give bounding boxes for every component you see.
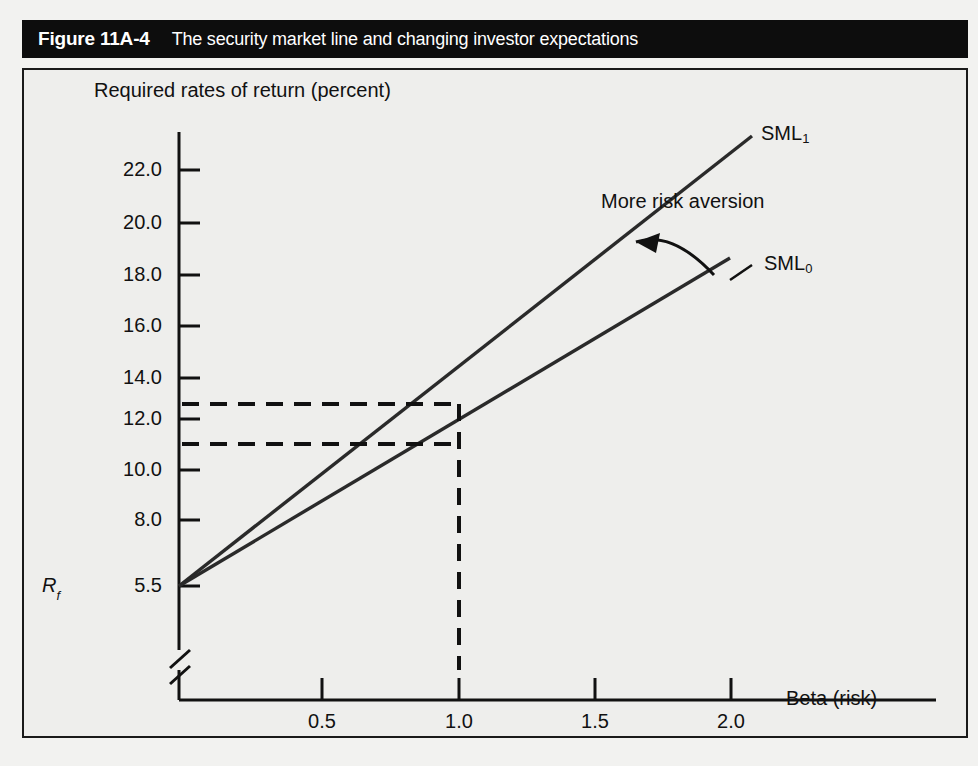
figure-title-bar: Figure 11A-4 The security market line an…: [22, 20, 968, 58]
y-axis-title-text: Required rates of return (percent): [94, 79, 391, 101]
risk-free-rate-symbol: R: [42, 574, 56, 596]
y-tick-label-10: 10.0: [84, 458, 162, 481]
sml0-label-leader: [730, 265, 752, 280]
y-axis-title: Required rates of return (percent): [94, 78, 391, 103]
y-tick-label-8: 8.0: [84, 508, 162, 531]
figure-caption: The security market line and changing in…: [172, 29, 638, 50]
x-axis-title: Beta (risk): [786, 686, 877, 711]
y-tick-label-20: 20.0: [84, 211, 162, 234]
x-tick-label-1-5: 1.5: [565, 710, 625, 733]
y-tick-label-18: 18.0: [84, 263, 162, 286]
more-risk-aversion-annotation: More risk aversion: [601, 190, 764, 213]
y-tick-label-14: 14.0: [84, 366, 162, 389]
y-tick-label-16: 16.0: [84, 314, 162, 337]
x-tick-label-0-5: 0.5: [292, 710, 352, 733]
figure-page: Figure 11A-4 The security market line an…: [0, 0, 978, 766]
figure-number: Figure 11A-4: [38, 28, 150, 50]
risk-free-rate-subscript: f: [56, 588, 60, 603]
sml1-label-subscript: 1: [802, 131, 809, 146]
chart-frame: Required rates of return (percent) Beta …: [22, 68, 968, 738]
risk-free-rate-label: Rf: [42, 574, 60, 600]
x-tick-label-2-0: 2.0: [701, 710, 761, 733]
sml1-label: SML1: [761, 122, 809, 145]
sml0-line: [179, 258, 730, 586]
y-axis-break-mark-upper: [170, 650, 190, 668]
sml0-label-subscript: 0: [805, 261, 812, 276]
y-tick-label-5-5: 5.5: [84, 574, 162, 597]
y-tick-label-12: 12.0: [84, 407, 162, 430]
security-market-line-chart: [24, 70, 966, 736]
y-tick-label-22: 22.0: [84, 158, 162, 181]
sml0-label-text: SML: [764, 252, 805, 274]
sml0-label: SML0: [764, 252, 812, 275]
x-tick-label-1-0: 1.0: [429, 710, 489, 733]
risk-aversion-arrow-head: [636, 233, 660, 253]
sml1-label-text: SML: [761, 122, 802, 144]
